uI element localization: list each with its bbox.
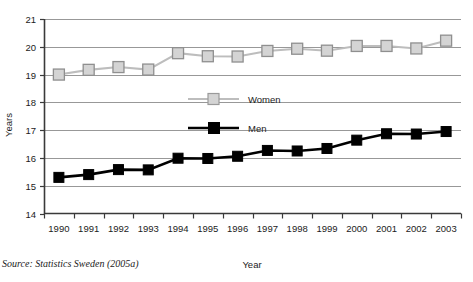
data-point-men bbox=[292, 146, 302, 156]
data-point-women bbox=[143, 64, 154, 75]
data-point-women bbox=[173, 48, 184, 59]
data-point-women bbox=[113, 62, 124, 73]
x-axis-tick-label: 1996 bbox=[227, 223, 248, 234]
data-point-women bbox=[53, 69, 64, 80]
data-point-women bbox=[411, 43, 422, 54]
x-axis-tick-label: 1993 bbox=[138, 223, 159, 234]
data-point-men bbox=[84, 170, 94, 180]
data-point-men bbox=[322, 143, 332, 153]
x-axis-title: Year bbox=[242, 259, 261, 270]
x-axis-tick-label: 1997 bbox=[257, 223, 278, 234]
legend-men-label: Men bbox=[248, 123, 266, 134]
plot-background bbox=[44, 19, 461, 214]
y-axis-tick-label: 18 bbox=[25, 97, 36, 108]
data-point-men bbox=[382, 129, 392, 139]
data-point-women bbox=[83, 64, 94, 75]
legend-women-label: Women bbox=[248, 94, 281, 105]
x-axis-tick-label: 1992 bbox=[108, 223, 129, 234]
y-axis-tick-label: 21 bbox=[25, 14, 36, 25]
y-axis-tick-label: 16 bbox=[25, 153, 36, 164]
x-axis-tick-label: 1998 bbox=[287, 223, 308, 234]
y-axis-tick-label: 15 bbox=[25, 181, 36, 192]
x-axis-tick-label: 1994 bbox=[167, 223, 188, 234]
x-axis-tick-label: 1995 bbox=[197, 223, 218, 234]
x-axis-tick-label: 2003 bbox=[436, 223, 457, 234]
data-point-women bbox=[292, 43, 303, 54]
y-axis-tick-label: 14 bbox=[25, 209, 36, 220]
data-point-men bbox=[173, 153, 183, 163]
data-point-women bbox=[321, 45, 332, 56]
y-axis-tick-label: 20 bbox=[25, 42, 36, 53]
data-point-men bbox=[143, 165, 153, 175]
data-point-women bbox=[351, 40, 362, 51]
data-point-women bbox=[381, 40, 392, 51]
x-axis-tick-label: 1990 bbox=[48, 223, 69, 234]
y-axis-tick-labels: 1415161718192021 bbox=[25, 14, 36, 220]
data-point-women bbox=[441, 35, 452, 46]
data-point-men bbox=[203, 153, 213, 163]
data-point-women bbox=[232, 51, 243, 62]
data-point-men bbox=[54, 172, 64, 182]
y-axis-tick-label: 17 bbox=[25, 125, 36, 136]
source-text: Source: Statistics Sweden (2005a) bbox=[2, 258, 139, 269]
y-axis-ticks bbox=[40, 20, 44, 215]
data-point-men bbox=[262, 145, 272, 155]
line-chart: 1415161718192021 19901991199219931994199… bbox=[0, 0, 473, 282]
x-axis-tick-label: 2002 bbox=[406, 223, 427, 234]
x-axis-tick-label: 2000 bbox=[346, 223, 367, 234]
x-axis-tick-label: 1991 bbox=[78, 223, 99, 234]
data-point-men bbox=[233, 151, 243, 161]
data-point-women bbox=[262, 45, 273, 56]
data-point-men bbox=[113, 165, 123, 175]
figure-container: 1415161718192021 19901991199219931994199… bbox=[0, 0, 473, 282]
x-axis-tick-label: 1999 bbox=[316, 223, 337, 234]
data-point-men bbox=[352, 135, 362, 145]
x-axis-tick-labels: 1990199119921993199419951996199719981999… bbox=[48, 223, 456, 234]
y-axis-title: Years bbox=[3, 113, 14, 137]
source-note: Source: Statistics Sweden (2005a) bbox=[2, 258, 139, 269]
legend-women-marker bbox=[208, 94, 219, 105]
data-point-men bbox=[411, 129, 421, 139]
y-axis-tick-label: 19 bbox=[25, 70, 36, 81]
data-point-women bbox=[202, 51, 213, 62]
x-axis-tick-label: 2001 bbox=[376, 223, 397, 234]
legend-men-marker bbox=[208, 122, 220, 134]
data-point-men bbox=[441, 127, 451, 137]
